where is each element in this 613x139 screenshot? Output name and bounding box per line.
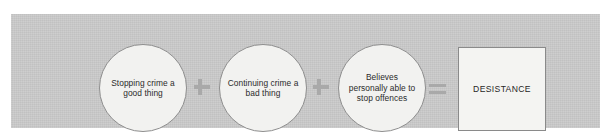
- plus-operator-icon: [192, 77, 212, 97]
- term-label: Believes personally able to stop offence…: [339, 72, 425, 103]
- equals-bar-top: [429, 84, 446, 87]
- term-ellipse-stopping-crime-good: Stopping crime a good thing: [99, 44, 187, 132]
- diagram-panel: Stopping crime a good thing Continuing c…: [11, 14, 600, 128]
- term-ellipse-believes-able-to-stop: Believes personally able to stop offence…: [338, 44, 426, 132]
- equals-operator-icon: [428, 78, 448, 98]
- result-box-desistance: DESISTANCE: [458, 47, 546, 131]
- desistance-equation-diagram: Stopping crime a good thing Continuing c…: [0, 0, 613, 139]
- term-label: Stopping crime a good thing: [100, 78, 186, 99]
- equals-bar-bottom: [429, 91, 446, 94]
- plus-operator-icon: [311, 77, 331, 97]
- equation-flow: Stopping crime a good thing Continuing c…: [11, 14, 600, 128]
- result-label: DESISTANCE: [473, 84, 531, 94]
- term-label: Continuing crime a bad thing: [220, 78, 306, 99]
- term-ellipse-continuing-crime-bad: Continuing crime a bad thing: [219, 44, 307, 132]
